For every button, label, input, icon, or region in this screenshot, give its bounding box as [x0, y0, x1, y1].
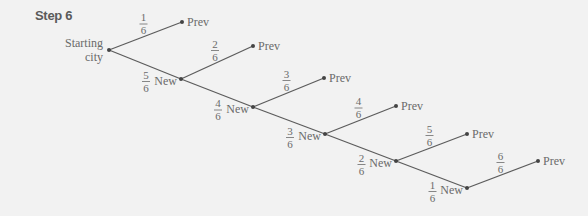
prob-new-1-denominator: 6 [143, 82, 149, 94]
prev-label: Prev [472, 127, 494, 141]
new-node-1 [179, 77, 183, 81]
prev-node-2 [251, 44, 255, 48]
prob-new-4-denominator: 6 [359, 165, 365, 177]
starting-city-label-line1: Starting [65, 36, 103, 50]
new-label: New [298, 129, 321, 143]
new-node-2 [251, 105, 255, 109]
prob-prev-6-denominator: 6 [498, 163, 504, 175]
prev-node-1 [180, 20, 184, 24]
prev-label: Prev [187, 15, 209, 29]
prob-prev-4-denominator: 6 [356, 108, 362, 120]
prob-new-1-numerator: 5 [143, 69, 149, 81]
new-label: New [369, 156, 392, 170]
prob-new-3-denominator: 6 [287, 138, 293, 150]
prob-prev-1-numerator: 1 [141, 11, 147, 23]
prob-prev-3-numerator: 3 [284, 68, 290, 80]
prev-label: Prev [258, 39, 280, 53]
new-label: New [154, 74, 177, 88]
starting-city-label-line2: city [85, 50, 103, 64]
prev-node-5 [465, 132, 469, 136]
prob-prev-5-denominator: 6 [427, 136, 433, 148]
new-node-4 [394, 159, 398, 163]
probability-tree-diagram: NewNewNewNewNewPrevPrevPrevPrevPrevPrevS… [0, 0, 588, 216]
prob-new-2-denominator: 6 [215, 110, 221, 122]
new-label: New [440, 183, 463, 197]
prob-prev-3-denominator: 6 [284, 81, 290, 93]
prob-prev-4-numerator: 4 [356, 95, 362, 107]
start-node [107, 48, 111, 52]
prob-prev-2-numerator: 2 [212, 38, 218, 50]
new-node-3 [323, 132, 327, 136]
prev-node-3 [322, 76, 326, 80]
prev-label: Prev [543, 154, 565, 168]
prev-label: Prev [329, 71, 351, 85]
prob-prev-1-denominator: 6 [141, 24, 147, 36]
prob-new-5-denominator: 6 [430, 192, 436, 204]
prev-node-4 [394, 104, 398, 108]
prob-prev-6-numerator: 6 [498, 150, 504, 162]
prob-prev-5-numerator: 5 [427, 123, 433, 135]
prev-label: Prev [401, 99, 423, 113]
prob-new-5-numerator: 1 [430, 179, 436, 191]
prob-prev-2-denominator: 6 [212, 51, 218, 63]
new-label: New [226, 102, 249, 116]
prob-new-4-numerator: 2 [359, 152, 365, 164]
prob-new-2-numerator: 4 [215, 97, 221, 109]
prob-new-3-numerator: 3 [287, 125, 293, 137]
new-node-5 [465, 186, 469, 190]
prev-node-6 [536, 159, 540, 163]
